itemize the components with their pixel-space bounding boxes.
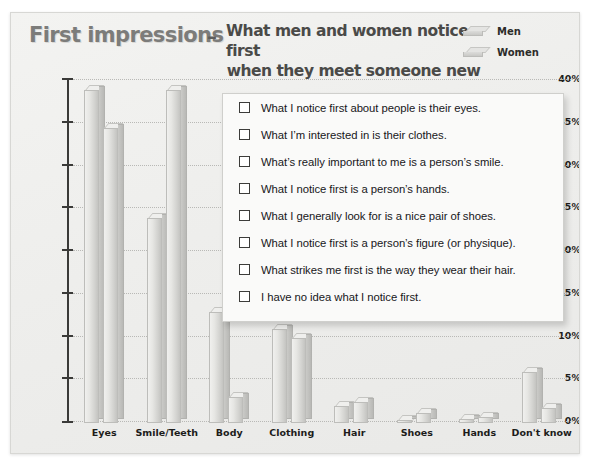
survey-option-label: What I generally look for is a nice pair…	[261, 210, 496, 222]
bar-men-hands	[459, 419, 474, 423]
bar-men-clothing	[272, 329, 287, 423]
chart-card: First impressions – What men and women n…	[10, 12, 580, 454]
checkbox-icon[interactable]	[239, 264, 250, 275]
y-axis-tick-mark	[62, 164, 73, 166]
bar-women-smile-teeth	[166, 90, 181, 423]
bar-women-clothing	[291, 338, 306, 424]
survey-options-panel: What I notice first about people is thei…	[222, 93, 564, 322]
survey-option-label: What I’m interested in is their clothes.	[261, 129, 447, 141]
bar-men-body	[209, 312, 224, 423]
survey-option-row[interactable]: What I generally look for is a nice pair…	[223, 202, 563, 229]
survey-option-label: What’s really important to me is a perso…	[261, 156, 504, 168]
x-axis-label: Smile/Teeth	[136, 427, 199, 438]
survey-option-label: I have no idea what I notice first.	[261, 291, 421, 303]
checkbox-icon[interactable]	[239, 129, 250, 140]
survey-option-row[interactable]: What I notice first about people is thei…	[223, 94, 563, 121]
y-axis-tick-mark	[62, 121, 73, 123]
bar-women-don-t-know	[541, 408, 556, 423]
x-axis-label: Don't know	[511, 427, 574, 438]
bar-men-hair	[334, 406, 349, 423]
y-axis-tick-mark	[62, 206, 73, 208]
checkbox-icon[interactable]	[239, 237, 250, 248]
bar-men-smile-teeth	[147, 218, 162, 423]
checkbox-icon[interactable]	[239, 210, 250, 221]
x-axis-label: Hair	[323, 427, 386, 438]
bar-women-eyes	[103, 128, 118, 423]
bar-women-hair	[353, 402, 368, 423]
x-axis-label: Eyes	[73, 427, 136, 438]
checkbox-icon[interactable]	[239, 102, 250, 113]
bar-group	[147, 73, 187, 423]
y-axis-zero-tick	[62, 421, 73, 423]
bar-men-eyes	[84, 90, 99, 423]
y-axis-tick-mark	[62, 292, 73, 294]
y-axis-tick-mark	[62, 335, 73, 337]
x-axis-label: Shoes	[386, 427, 449, 438]
x-axis-label: Hands	[448, 427, 511, 438]
y-axis-tick-mark	[62, 249, 73, 251]
y-axis-tick-mark	[62, 377, 73, 379]
checkbox-icon[interactable]	[239, 156, 250, 167]
x-axis-label: Clothing	[261, 427, 324, 438]
survey-options-list: What I notice first about people is thei…	[223, 94, 563, 310]
survey-option-row[interactable]: What strikes me first is the way they we…	[223, 256, 563, 283]
survey-option-label: What I notice first about people is thei…	[261, 102, 481, 114]
survey-option-row[interactable]: What I notice first is a person’s hands.	[223, 175, 563, 202]
bar-men-shoes	[397, 420, 412, 423]
bar-women-shoes	[416, 413, 431, 423]
bar-women-hands	[478, 417, 493, 423]
survey-option-row[interactable]: What’s really important to me is a perso…	[223, 148, 563, 175]
bar-women-body	[228, 397, 243, 423]
bar-group	[84, 73, 124, 423]
survey-option-row[interactable]: What I notice first is a person’s figure…	[223, 229, 563, 256]
chart-screenshot: First impressions – What men and women n…	[0, 0, 589, 465]
x-axis-label: Body	[198, 427, 261, 438]
checkbox-icon[interactable]	[239, 291, 250, 302]
checkbox-icon[interactable]	[239, 183, 250, 194]
survey-option-label: What I notice first is a person’s figure…	[261, 237, 515, 249]
survey-option-row[interactable]: I have no idea what I notice first.	[223, 283, 563, 310]
bar-men-don-t-know	[522, 372, 537, 423]
survey-option-label: What strikes me first is the way they we…	[261, 264, 516, 276]
survey-option-row[interactable]: What I’m interested in is their clothes.	[223, 121, 563, 148]
y-axis-tick-mark	[62, 78, 73, 80]
survey-option-label: What I notice first is a person’s hands.	[261, 183, 450, 195]
